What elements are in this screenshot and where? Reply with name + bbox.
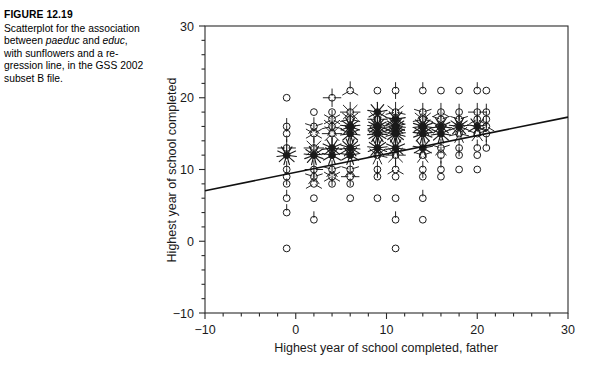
sunflower-marker <box>374 195 381 202</box>
chart-canvas: −100102030 −100102030 Highest year of sc… <box>0 0 598 365</box>
sunflower-marker <box>283 190 290 201</box>
sunflower-marker <box>392 212 399 223</box>
marker-petal <box>333 140 337 146</box>
marker-petal <box>398 133 406 134</box>
marker-core <box>347 152 353 158</box>
sunflower-marker <box>456 87 463 94</box>
sunflower-marker <box>474 166 481 173</box>
sunflower-marker <box>347 195 354 202</box>
x-axis-tick-labels: −100102030 <box>194 323 575 337</box>
marker-core <box>438 131 444 137</box>
marker-circle <box>392 245 399 252</box>
marker-circle <box>311 195 318 202</box>
sunflower-marker <box>419 162 426 178</box>
regression-line-segment <box>205 117 568 191</box>
marker-circle <box>456 87 463 94</box>
marker-petal <box>397 106 403 111</box>
marker-core <box>374 131 380 137</box>
sunflower-marker <box>483 140 490 151</box>
marker-petal <box>432 130 439 133</box>
marker-petal <box>397 157 402 162</box>
sunflower-marker <box>456 166 463 173</box>
marker-petal <box>434 135 440 140</box>
marker-circle <box>438 173 445 180</box>
marker-petal <box>289 151 296 154</box>
sunflower-marker <box>474 152 481 159</box>
marker-petal <box>352 135 358 140</box>
sunflower-marker <box>474 140 481 151</box>
sunflower-marker <box>392 173 399 180</box>
marker-petal <box>343 105 348 110</box>
marker-circle <box>283 245 290 252</box>
x-tick-label: −10 <box>194 323 215 337</box>
marker-petal <box>325 135 330 140</box>
y-axis-title: Highest year of school completed <box>165 78 179 263</box>
marker-petal <box>334 135 339 140</box>
marker-petal <box>334 144 341 147</box>
marker-petal <box>378 157 381 164</box>
sunflower-marker <box>392 195 399 202</box>
marker-circle <box>419 216 426 223</box>
marker-petal <box>278 151 285 154</box>
sunflower-marker <box>438 147 445 163</box>
marker-petal <box>307 141 312 146</box>
sunflower-marker <box>392 245 399 252</box>
marker-circle <box>392 173 399 180</box>
sunflower-marker <box>474 83 481 94</box>
scatterplot: −100102030 −100102030 Highest year of sc… <box>0 0 598 365</box>
marker-core <box>347 131 353 137</box>
sunflower-marker <box>414 146 431 162</box>
sunflower-marker <box>341 168 359 186</box>
marker-petal <box>380 134 388 135</box>
marker-circle <box>347 195 354 202</box>
sunflower-marker <box>343 82 358 95</box>
sunflower-marker <box>283 169 290 185</box>
x-tick-label: 10 <box>380 323 394 337</box>
marker-petal <box>342 156 349 160</box>
sunflower-marker <box>283 94 290 101</box>
marker-petal <box>324 156 331 160</box>
sunflower-marker <box>283 205 290 216</box>
sunflower-marker <box>392 83 399 99</box>
marker-petal <box>279 157 285 162</box>
sunflower-marker <box>388 161 403 174</box>
sunflower-marker <box>311 195 318 202</box>
sunflower-marker <box>306 175 321 188</box>
marker-petal <box>327 140 331 146</box>
x-axis-title: Highest year of school completed, father <box>274 341 498 355</box>
sunflower-marker <box>374 87 381 94</box>
marker-circle <box>483 87 490 94</box>
marker-petal <box>368 134 376 135</box>
marker-circle <box>283 94 290 101</box>
marker-core <box>311 152 317 158</box>
marker-petal <box>443 135 449 140</box>
marker-petal <box>388 106 394 111</box>
x-tick-label: 30 <box>561 323 575 337</box>
marker-circle <box>456 166 463 173</box>
marker-circle <box>392 195 399 202</box>
marker-circle <box>438 87 445 94</box>
y-tick-label: 0 <box>187 235 194 249</box>
sunflower-marker <box>419 83 426 94</box>
y-tick-label: −10 <box>173 307 194 321</box>
y-axis-ticks <box>199 26 205 313</box>
marker-core <box>284 152 290 158</box>
marker-petal <box>334 156 341 160</box>
sunflower-marker <box>374 169 381 180</box>
y-tick-label: 10 <box>180 163 194 177</box>
marker-petal <box>371 105 376 111</box>
x-axis-ticks <box>205 313 568 319</box>
marker-circle <box>374 195 381 202</box>
marker-petal <box>379 105 384 111</box>
marker-petal <box>323 144 330 147</box>
figure-container: FIGURE 12.19 Scatterplot for the associa… <box>0 0 598 365</box>
sunflower-marker <box>438 173 445 180</box>
sunflower-marker <box>438 87 445 94</box>
plot-frame <box>205 26 568 313</box>
marker-petal <box>373 157 376 164</box>
marker-petal <box>352 105 357 110</box>
sunflower-marker <box>419 216 426 223</box>
x-tick-label: 20 <box>470 323 484 337</box>
sunflower-marker <box>311 109 318 116</box>
marker-petal <box>389 157 394 162</box>
